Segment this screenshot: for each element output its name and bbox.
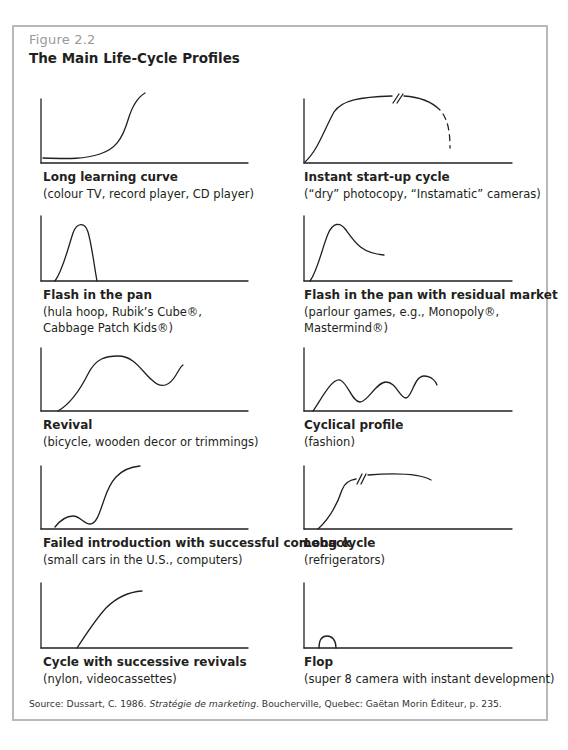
- source-prefix: Source: Dussart, C. 1986.: [29, 698, 149, 709]
- profile-desc: (super 8 camera with instant development…: [304, 671, 554, 687]
- profile-title: Flop: [304, 655, 333, 669]
- source-suffix: . Boucherville, Quebec: Gaëtan Morin Édi…: [256, 698, 502, 709]
- source-book-title: Stratégie de marketing: [149, 698, 256, 709]
- source-citation: Source: Dussart, C. 1986. Stratégie de m…: [29, 698, 502, 709]
